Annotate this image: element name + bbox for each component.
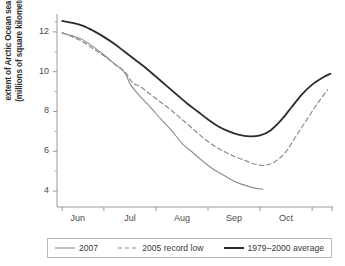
x-tick-label: Oct: [266, 213, 306, 223]
series-group: [62, 21, 330, 189]
y-tick-label: 12: [31, 26, 49, 36]
series-line: [62, 33, 262, 189]
legend-item[interactable]: 1979–2000 average: [224, 243, 324, 253]
legend-item[interactable]: 2007: [55, 243, 98, 253]
y-tick-label: 4: [31, 185, 49, 195]
legend-swatch-icon: [118, 244, 138, 252]
chart-svg: [0, 0, 345, 232]
plot-area: extent of Arctic Ocean sea ice (millions…: [0, 0, 345, 232]
x-tick-label: Jul: [110, 213, 150, 223]
legend-item[interactable]: 2005 record low: [118, 243, 203, 253]
y-tick-label: 6: [31, 145, 49, 155]
axes-group: [53, 14, 333, 211]
x-tick-label: Aug: [162, 213, 202, 223]
y-tick-label: 10: [31, 66, 49, 76]
legend-label: 2007: [79, 243, 98, 253]
legend-label: 1979–2000 average: [248, 243, 324, 253]
legend-swatch-icon: [224, 244, 244, 252]
chart-figure: extent of Arctic Ocean sea ice (millions…: [0, 0, 345, 266]
x-tick-label: Jun: [58, 213, 98, 223]
x-tick-label: Sep: [214, 213, 254, 223]
chart-legend: 20072005 record low1979–2000 average: [47, 238, 332, 258]
legend-label: 2005 record low: [142, 243, 203, 253]
legend-swatch-icon: [55, 244, 75, 252]
y-tick-label: 8: [31, 105, 49, 115]
series-line: [62, 21, 330, 136]
